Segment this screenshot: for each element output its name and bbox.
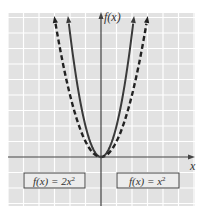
legend-label-2x-squared: f(x) = 2x [33, 175, 72, 188]
svg-text:f(x) = x2: f(x) = x2 [129, 175, 166, 188]
x-axis-label: x [189, 159, 196, 173]
legend-label-x-squared: f(x) = x [129, 175, 162, 188]
legend-box-x-squared: f(x) = x2 [117, 173, 179, 188]
parabola-chart: x f(x) f(x) = 2x2 f(x) = x2 [0, 0, 204, 215]
svg-text:f(x) = 2x2: f(x) = 2x2 [33, 175, 76, 188]
y-axis-label: f(x) [104, 10, 121, 24]
legend-box-2x-squared: f(x) = 2x2 [24, 173, 85, 188]
